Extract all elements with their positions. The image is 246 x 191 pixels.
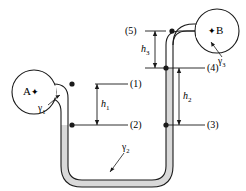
arrow-h2-top bbox=[177, 68, 181, 73]
dot-point-2 bbox=[69, 122, 74, 127]
tank-b-label: B bbox=[216, 24, 223, 36]
h2-sub: 2 bbox=[188, 96, 192, 104]
tank-a-label-group: A✦ bbox=[23, 86, 39, 97]
gamma2-sub: 2 bbox=[126, 147, 129, 154]
point-label-5: (5) bbox=[125, 26, 137, 36]
tank-b-marker: ✦ bbox=[208, 26, 216, 36]
point-label-1: (1) bbox=[130, 79, 142, 89]
fluid-label-gamma-3: γ3 bbox=[218, 57, 225, 68]
fluid-label-gamma-1: γ1 bbox=[38, 104, 45, 115]
h3-sub: 3 bbox=[146, 49, 150, 57]
arrow-h3-bottom bbox=[153, 63, 157, 68]
arrow-h1-bottom bbox=[95, 120, 99, 125]
gamma1-sub: 1 bbox=[42, 108, 45, 115]
arrow-h2-bottom bbox=[177, 120, 181, 125]
dot-point-3 bbox=[163, 122, 168, 127]
figure-canvas: A✦ ✦B (1) (2) (3) (4) (5) h1 h2 h3 γ1 γ2… bbox=[0, 0, 246, 191]
gamma3-sub: 3 bbox=[222, 61, 225, 68]
dot-elbow-a bbox=[69, 81, 74, 86]
point-label-2: (2) bbox=[130, 120, 142, 130]
arrow-h1-top bbox=[95, 84, 99, 89]
dimension-label-h3: h3 bbox=[141, 44, 150, 57]
dimension-label-h2: h2 bbox=[183, 91, 192, 104]
dot-point-4 bbox=[163, 65, 168, 70]
arrow-h3-top bbox=[153, 31, 157, 36]
arrowhead-gamma-2 bbox=[110, 167, 115, 172]
fluid-label-gamma-2: γ2 bbox=[122, 143, 129, 154]
manometer-fluid-fill bbox=[61, 68, 173, 187]
h1-sub: 1 bbox=[106, 104, 110, 112]
point-label-4: (4) bbox=[207, 63, 219, 73]
dimension-label-h1: h1 bbox=[101, 99, 110, 112]
dot-point-5 bbox=[169, 28, 174, 33]
point-label-3: (3) bbox=[207, 120, 219, 130]
pipe-inner-wall bbox=[34, 31, 200, 180]
tank-b-label-group: ✦B bbox=[208, 25, 223, 36]
tank-a-label: A bbox=[23, 85, 31, 97]
tank-a-marker: ✦ bbox=[31, 87, 39, 97]
